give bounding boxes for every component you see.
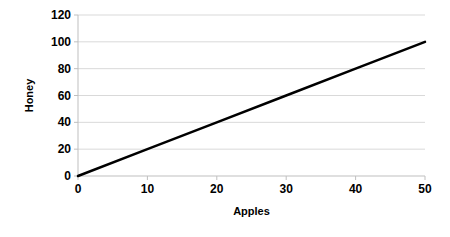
x-axis-ticks [78,176,425,180]
y-axis-tick-label: 60 [11,90,71,102]
y-axis-tick-label: 20 [11,143,71,155]
x-axis-tick-label: 30 [266,183,306,195]
y-axis-tick-label: 120 [11,9,71,21]
y-axis-tick-label: 0 [11,170,71,182]
gridlines [78,15,425,149]
y-axis-tick-label: 80 [11,63,71,75]
line-chart: 020406080100120 01020304050 Honey Apples [0,0,450,237]
x-axis-tick-label: 40 [336,183,376,195]
data-series-honey [78,42,425,176]
y-axis-title: Honey [21,15,37,176]
y-axis-tick-label: 40 [11,116,71,128]
x-axis-tick-label: 50 [405,183,445,195]
x-axis-title: Apples [78,205,425,217]
x-axis-tick-label: 0 [58,183,98,195]
y-axis-tick-label: 100 [11,36,71,48]
x-axis-tick-label: 20 [197,183,237,195]
series-line-honey [78,42,425,176]
x-axis-tick-label: 10 [127,183,167,195]
y-axis-ticks [74,15,78,176]
